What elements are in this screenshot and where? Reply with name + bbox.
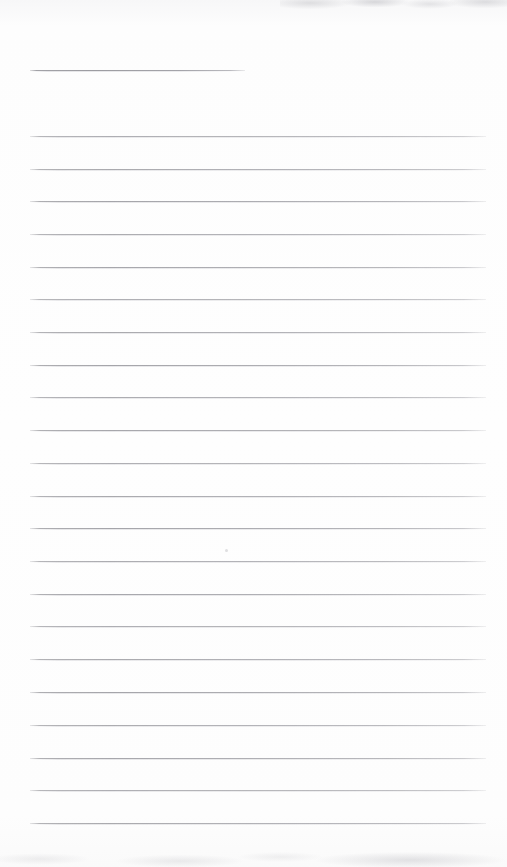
title-underline: [30, 70, 245, 71]
ruled-line: [30, 692, 486, 693]
scanner-edge-shadow-top-icon: [280, 0, 507, 13]
ruled-line: [30, 332, 486, 333]
ruled-line: [30, 594, 486, 595]
ruled-line: [30, 397, 486, 398]
ruled-line: [30, 430, 486, 431]
paper-background: [0, 0, 507, 867]
scan-speck-icon: [225, 549, 228, 552]
ruled-line: [30, 201, 486, 202]
scanner-edge-shadow-bottom-icon: [0, 845, 507, 867]
ruled-line: [30, 496, 486, 497]
ruled-line: [30, 659, 486, 660]
ruled-line: [30, 463, 486, 464]
ruled-line: [30, 136, 486, 137]
ruled-line: [30, 365, 486, 366]
ruled-line: [30, 823, 486, 824]
scanned-page: [0, 0, 507, 867]
ruled-line: [30, 725, 486, 726]
ruled-line: [30, 299, 486, 300]
ruled-line: [30, 267, 486, 268]
ruled-line: [30, 528, 486, 529]
ruled-line: [30, 626, 486, 627]
ruled-line: [30, 169, 486, 170]
ruled-line: [30, 758, 486, 759]
ruled-line: [30, 561, 486, 562]
ruled-line: [30, 234, 486, 235]
ruled-line: [30, 790, 486, 791]
